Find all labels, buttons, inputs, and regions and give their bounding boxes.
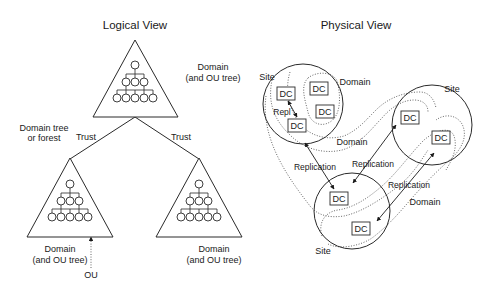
replication-label-2: Replication <box>352 159 394 169</box>
svg-text:DC: DC <box>404 113 417 123</box>
physical-view: Physical View DC DC DC DC <box>259 19 472 256</box>
dc-box: DC <box>401 111 419 124</box>
replication-label-1: Replication <box>294 162 336 172</box>
site-label-1: Site <box>259 72 275 82</box>
bottom-right-domain-sublabel: (and OU tree) <box>186 255 241 265</box>
physical-view-title: Physical View <box>321 19 392 31</box>
bottom-left-domain-sublabel: (and OU tree) <box>32 255 87 265</box>
logical-view: Logical View Domain (and OU tree) Domain… <box>19 19 242 280</box>
trust-label-right: Trust <box>171 132 192 142</box>
svg-text:DC: DC <box>291 121 304 131</box>
bottom-left-domain-triangle <box>27 158 113 237</box>
trust-label-left: Trust <box>76 132 97 142</box>
svg-text:DC: DC <box>280 89 293 99</box>
svg-text:DC: DC <box>333 194 346 204</box>
dc-box: DC <box>288 119 306 132</box>
top-domain-label: Domain <box>197 62 228 72</box>
site-label-3: Site <box>315 246 331 256</box>
site-label-2: Site <box>444 84 460 94</box>
replication-arrow-site2-site3 <box>353 125 396 183</box>
bottom-right-domain-triangle <box>156 158 242 237</box>
domain-label-1: Domain <box>339 77 370 87</box>
site-circle-2 <box>392 85 472 165</box>
top-domain-triangle <box>93 40 178 117</box>
domain-label-3: Domain <box>409 197 440 207</box>
svg-text:DC: DC <box>313 84 326 94</box>
ad-logical-physical-diagram: Logical View Domain (and OU tree) Domain… <box>0 0 481 290</box>
ou-label: OU <box>84 270 98 280</box>
site-circle-3 <box>314 173 390 249</box>
svg-text:DC: DC <box>435 133 448 143</box>
forest-label: Domain tree <box>19 123 68 133</box>
dc-box: DC <box>432 131 450 144</box>
bottom-right-domain-label: Domain <box>198 244 229 254</box>
svg-text:DC: DC <box>319 107 332 117</box>
dc-box: DC <box>277 87 295 100</box>
replication-label-intra: Repl <box>273 107 291 117</box>
top-domain-sublabel: (and OU tree) <box>185 73 240 83</box>
dc-box: DC <box>310 82 328 95</box>
logical-view-title: Logical View <box>103 19 168 31</box>
dc-box: DC <box>330 192 348 205</box>
svg-text:DC: DC <box>355 224 368 234</box>
bottom-left-domain-label: Domain <box>44 244 75 254</box>
domain-label-2: Domain <box>336 137 367 147</box>
forest-sublabel: or forest <box>27 133 61 143</box>
replication-label-3: Replication <box>388 180 430 190</box>
dc-box: DC <box>316 105 334 118</box>
dc-box: DC <box>352 222 370 235</box>
